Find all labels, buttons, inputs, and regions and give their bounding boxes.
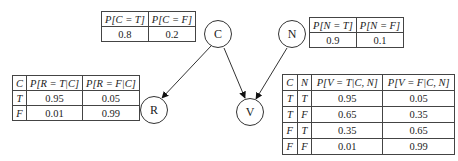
condition-cell: T — [297, 123, 312, 139]
header-cell: P[R = T|C] — [27, 76, 83, 91]
condition-cell: T — [297, 91, 312, 107]
value-cell: 0.99 — [383, 139, 455, 155]
condition-cell: T — [283, 91, 298, 107]
header-cell: P[V = T|C, N] — [312, 75, 383, 91]
cpt-table-c: P[C = T] P[C = F] 0.8 0.2 — [101, 11, 196, 42]
value-cell: 0.65 — [312, 107, 383, 123]
table-row: F 0.01 0.99 — [13, 106, 140, 121]
cpt-table-r: C P[R = T|C] P[R = F|C] T 0.95 0.05 F 0.… — [12, 75, 140, 121]
value-cell: 0.95 — [312, 91, 383, 107]
value-cell: 0.01 — [312, 139, 383, 155]
value-cell: 0.2 — [148, 27, 195, 42]
table-row: T T 0.95 0.05 — [283, 91, 455, 107]
value-cell: 0.1 — [356, 33, 403, 48]
table-row: T 0.95 0.05 — [13, 91, 140, 106]
table-row: T F 0.65 0.35 — [283, 107, 455, 123]
node-v-label: V — [246, 105, 255, 120]
node-n: N — [278, 20, 306, 48]
value-cell: 0.35 — [312, 123, 383, 139]
cpt-table-n: P[N = T] P[N = F] 0.9 0.1 — [309, 17, 404, 48]
table-header-row: C P[R = T|C] P[R = F|C] — [13, 76, 140, 91]
node-n-label: N — [288, 27, 297, 42]
table-header-row: P[C = T] P[C = F] — [102, 12, 196, 27]
condition-cell: F — [283, 139, 298, 155]
node-r-label: R — [150, 103, 158, 118]
header-cell: C — [283, 75, 298, 91]
value-cell: 0.35 — [383, 107, 455, 123]
value-cell: 0.8 — [102, 27, 149, 42]
table-row: 0.8 0.2 — [102, 27, 196, 42]
node-v: V — [236, 98, 264, 126]
condition-cell: T — [13, 91, 27, 106]
value-cell: 0.95 — [27, 91, 83, 106]
value-cell: 0.05 — [383, 91, 455, 107]
header-cell: P[V = F|C, N] — [383, 75, 455, 91]
condition-cell: F — [13, 106, 27, 121]
edge-c-to-v — [224, 48, 245, 98]
value-cell: 0.65 — [383, 123, 455, 139]
condition-cell: F — [297, 139, 312, 155]
header-cell: P[C = T] — [102, 12, 149, 27]
condition-cell: F — [297, 107, 312, 123]
node-c-label: C — [214, 27, 222, 42]
header-cell: C — [13, 76, 27, 91]
cpt-table-v: C N P[V = T|C, N] P[V = F|C, N] T T 0.95… — [282, 74, 455, 155]
value-cell: 0.01 — [27, 106, 83, 121]
condition-cell: F — [283, 123, 298, 139]
value-cell: 0.99 — [83, 106, 140, 121]
header-cell: P[C = F] — [148, 12, 195, 27]
header-cell: P[R = F|C] — [83, 76, 140, 91]
node-c: C — [204, 20, 232, 48]
table-header-row: C N P[V = T|C, N] P[V = F|C, N] — [283, 75, 455, 91]
table-row: F T 0.35 0.65 — [283, 123, 455, 139]
condition-cell: T — [283, 107, 298, 123]
edge-c-to-r — [162, 46, 211, 98]
table-row: 0.9 0.1 — [310, 33, 404, 48]
value-cell: 0.05 — [83, 91, 140, 106]
node-r: R — [140, 96, 168, 124]
table-row: F F 0.01 0.99 — [283, 139, 455, 155]
header-cell: P[N = T] — [310, 18, 357, 33]
header-cell: P[N = F] — [356, 18, 403, 33]
table-header-row: P[N = T] P[N = F] — [310, 18, 404, 33]
header-cell: N — [297, 75, 312, 91]
value-cell: 0.9 — [310, 33, 357, 48]
